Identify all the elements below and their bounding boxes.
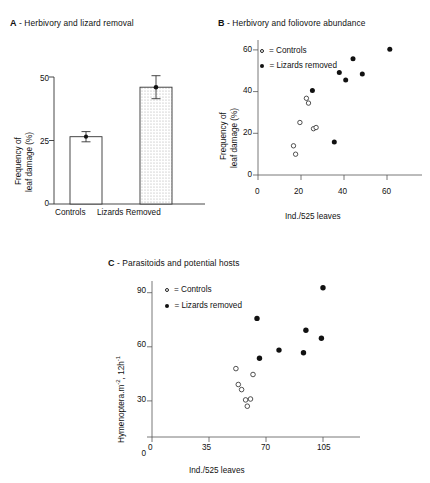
panel-c-point-lizards-removed (276, 347, 281, 352)
panel-a-plot (0, 0, 215, 225)
panel-b-point-lizards-removed (337, 70, 342, 75)
panel-c-point-lizards-removed (319, 336, 324, 341)
panel-b-point-lizards-removed (387, 47, 392, 52)
panel-b-series-lizards-removed (310, 47, 392, 145)
panel-b-series-controls (291, 96, 318, 156)
panel-c-plot (60, 245, 390, 483)
panel-a: A - Herbivory and lizard removal Frequen… (0, 0, 215, 225)
panel-c-point-controls (236, 382, 241, 387)
panel-b-point-controls (293, 152, 297, 156)
panel-b-point-controls (298, 120, 302, 124)
panel-c-point-lizards-removed (320, 285, 325, 290)
panel-c-point-lizards-removed (301, 350, 306, 355)
panel-c-point-controls (243, 398, 248, 403)
panel-c-point-controls (248, 397, 253, 402)
panel-b-point-controls (306, 101, 310, 105)
panel-c: C - Parasitoids and potential hosts Hyme… (60, 245, 390, 483)
figure-root: A - Herbivory and lizard removal Frequen… (0, 0, 430, 483)
panel-b-point-lizards-removed (343, 77, 348, 82)
panel-c-point-lizards-removed (257, 356, 262, 361)
panel-c-series-lizards-removed (254, 285, 325, 361)
panel-b-plot (212, 0, 430, 228)
panel-c-point-controls (234, 366, 239, 371)
panel-b-point-controls (314, 125, 318, 129)
panel-c-series-controls (234, 366, 256, 408)
panel-c-point-lizards-removed (254, 316, 259, 321)
panel-b-point-controls (291, 144, 295, 148)
panel-a-mean-point-controls (84, 135, 88, 139)
panel-b-point-lizards-removed (310, 88, 315, 93)
panel-c-point-controls (239, 387, 244, 392)
panel-a-mean-point-lizards-removed (154, 85, 159, 90)
panel-a-bar-lizards-removed (140, 87, 172, 204)
panel-b-point-controls (304, 96, 308, 100)
panel-c-point-controls (251, 372, 256, 377)
panel-c-point-controls (245, 404, 250, 409)
panel-b-point-lizards-removed (360, 71, 365, 76)
panel-b: B - Herbivory and foliovore abundance Fr… (212, 0, 430, 228)
panel-a-bar-controls (70, 137, 102, 204)
panel-c-point-lizards-removed (303, 328, 308, 333)
panel-b-point-lizards-removed (351, 56, 356, 61)
panel-b-point-lizards-removed (332, 140, 337, 145)
